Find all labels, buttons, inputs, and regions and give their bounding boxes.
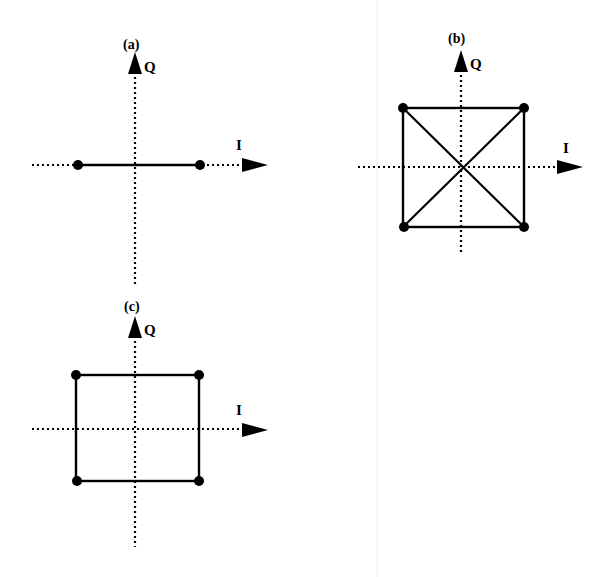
constellation-point <box>519 222 529 232</box>
q-axis-label: Q <box>144 59 156 75</box>
panel-c-label: (c) <box>124 299 140 315</box>
constellation-figure: (a) Q I (b) Q I (c) Q <box>0 0 605 577</box>
i-axis-arrow-icon <box>242 158 268 172</box>
constellation-point <box>399 222 409 232</box>
constellation-point <box>519 103 529 113</box>
constellation-point <box>71 370 81 380</box>
constellation-point <box>398 103 408 113</box>
constellation-point <box>194 476 204 486</box>
q-axis-arrow-icon <box>128 316 142 338</box>
panel-a-label: (a) <box>123 37 140 53</box>
i-axis-arrow-icon <box>242 423 268 437</box>
i-axis-label: I <box>236 402 242 418</box>
constellation-point <box>195 160 205 170</box>
constellation-point <box>72 476 82 486</box>
q-axis-label: Q <box>470 56 482 72</box>
panel-b: (b) Q I <box>358 31 583 255</box>
q-axis-label: Q <box>144 322 156 338</box>
panel-c: (c) Q I <box>32 299 268 547</box>
i-axis-arrow-icon <box>557 160 583 174</box>
i-axis-label: I <box>236 137 242 153</box>
i-axis-label: I <box>563 140 569 156</box>
constellation-point <box>73 160 83 170</box>
q-axis-arrow-icon <box>128 52 142 74</box>
constellation-point <box>194 370 204 380</box>
q-axis-arrow-icon <box>454 50 468 72</box>
panel-b-label: (b) <box>448 31 465 47</box>
panel-a: (a) Q I <box>32 37 268 287</box>
